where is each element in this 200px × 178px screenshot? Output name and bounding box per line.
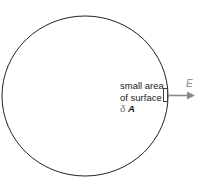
area-label-line1: small area: [120, 80, 164, 91]
area-symbol: A: [128, 103, 135, 114]
delta-symbol: δ: [120, 103, 125, 114]
area-symbol-label: δ A: [120, 103, 135, 114]
field-label-e: E: [186, 78, 193, 89]
diagram-canvas: [0, 0, 200, 178]
field-arrow-head-icon: [187, 92, 195, 100]
area-label-line2: of surface: [120, 92, 162, 103]
area-element-rect: [164, 89, 168, 102]
